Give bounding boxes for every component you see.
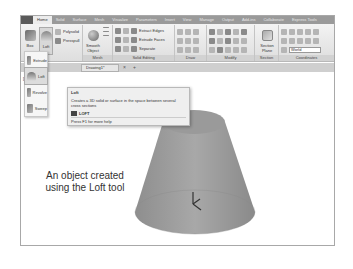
ribbon-tab-bar: Home Solid Surface Mesh Visualize Parame… (21, 16, 334, 24)
draw-row-3 (177, 45, 199, 54)
3d-rotate-icon[interactable] (217, 38, 223, 44)
tab-parameters[interactable]: Parameters (132, 16, 161, 24)
coordinates-panel-label[interactable]: Coordinates (279, 55, 334, 61)
ucs-3point-icon[interactable] (305, 38, 311, 44)
extrude-faces-button[interactable]: Extrude Faces (115, 35, 165, 44)
loft-icon (27, 72, 36, 81)
loft-icon (41, 31, 52, 42)
tab-surface[interactable]: Surface (69, 16, 91, 24)
hatch-icon[interactable] (185, 47, 191, 53)
tab-express-tools[interactable]: Express Tools (288, 16, 321, 24)
erase-icon[interactable] (241, 47, 247, 53)
draw-panel-label[interactable]: Draw (175, 55, 206, 61)
tooltip-command-name: LOFT (79, 111, 89, 117)
menu-item-loft[interactable]: Loft (25, 68, 47, 84)
tab-visualize[interactable]: Visualize (108, 16, 132, 24)
3d-move-icon[interactable] (225, 29, 231, 35)
tab-mesh[interactable]: Mesh (90, 16, 108, 24)
smooth-label-2: Object (85, 48, 101, 53)
loft-dropdown-menu: Extrude Loft Revolve Sweep (24, 51, 48, 117)
rotate-icon[interactable] (217, 29, 223, 35)
mesh-tool-icon[interactable] (103, 35, 109, 36)
section-panel-label[interactable]: Section (255, 55, 278, 61)
region-icon[interactable] (193, 47, 199, 53)
ucs-x-icon[interactable] (313, 38, 319, 44)
mesh-tool-icon[interactable] (103, 31, 109, 32)
ucs-zaxis-icon[interactable] (297, 38, 303, 44)
polysolid-button[interactable]: Polysolid (55, 27, 79, 36)
copy-icon[interactable] (233, 29, 239, 35)
tooltip-description: Creates a 3D solid or surface in the spa… (71, 98, 186, 109)
subtract-icon (123, 28, 129, 34)
spline-icon[interactable] (177, 38, 183, 44)
tab-solid[interactable]: Solid (52, 16, 69, 24)
ucs-icon[interactable] (281, 29, 287, 35)
tooltip-command: LOFT (71, 111, 186, 117)
section-plane-button[interactable]: Section Plane (259, 27, 275, 55)
coordinates-panel: World Coordinates (279, 25, 334, 61)
tab-output[interactable]: Output (218, 16, 238, 24)
presspull-button[interactable]: Presspull (55, 36, 79, 45)
menu-item-sweep[interactable]: Sweep (25, 100, 47, 116)
menu-item-extrude[interactable]: Extrude (25, 52, 47, 68)
3d-array-icon[interactable] (217, 47, 223, 53)
new-tab-button[interactable]: + (133, 64, 136, 70)
close-tab-icon[interactable]: × (123, 64, 126, 70)
ucs-view-icon[interactable] (281, 38, 287, 44)
intersect-icon (115, 37, 121, 43)
mesh-tool-icon[interactable] (103, 27, 109, 28)
menu-item-label: Revolve (33, 90, 47, 95)
extract-edges-button[interactable]: Extract Edges (115, 26, 164, 35)
application-menu-button[interactable] (21, 16, 33, 24)
tab-home[interactable]: Home (33, 16, 52, 24)
solid-editing-panel-label[interactable]: Solid Editing (113, 55, 174, 61)
trim-icon[interactable] (233, 47, 239, 53)
separate-icon (131, 46, 137, 52)
solid-editing-panel: Extract Edges Extrude Faces Separate Sol… (113, 25, 175, 61)
move-icon[interactable] (209, 29, 215, 35)
chamfer-icon[interactable] (241, 38, 247, 44)
ucs-object-icon[interactable] (313, 29, 319, 35)
modify-panel-label[interactable]: Modify (207, 55, 254, 61)
modify-row-2 (209, 36, 247, 45)
ucs-world-select[interactable]: World (289, 47, 321, 53)
stretch-icon[interactable] (209, 47, 215, 53)
ucs-world-icon[interactable] (289, 29, 295, 35)
mesh-small-tools (103, 27, 109, 36)
sweep-icon (27, 104, 33, 113)
caption-line-1: An object created (35, 170, 135, 182)
rectangle-icon[interactable] (177, 47, 183, 53)
separate-button[interactable]: Separate (115, 44, 155, 53)
file-tab-drawing1[interactable]: Drawing1* (81, 64, 119, 72)
ucs-face-icon[interactable] (305, 29, 311, 35)
menu-item-revolve[interactable]: Revolve (25, 84, 47, 100)
slice-icon (123, 37, 129, 43)
arc-icon[interactable] (193, 29, 199, 35)
ucs-previous-icon[interactable] (297, 29, 303, 35)
ribbon-panel-area: Box Loft Polysolid Presspull (21, 24, 334, 62)
command-line-icon (71, 111, 77, 116)
tab-add-ins[interactable]: Add-ins (238, 16, 260, 24)
box-icon (25, 30, 36, 41)
tooltip-title: Loft (71, 90, 186, 96)
3d-mirror-icon[interactable] (241, 29, 247, 35)
tab-manage[interactable]: Manage (195, 16, 217, 24)
tab-collaborate[interactable]: Collaborate (259, 16, 287, 24)
fillet-icon[interactable] (225, 38, 231, 44)
scale-icon[interactable] (233, 38, 239, 44)
mesh-panel-label[interactable]: Mesh (83, 55, 112, 61)
line-icon[interactable] (177, 29, 183, 35)
loft-tooltip: Loft Creates a 3D solid or surface in th… (67, 87, 190, 126)
polyline-icon[interactable] (185, 29, 191, 35)
align-icon[interactable] (209, 38, 215, 44)
offset-icon[interactable] (225, 47, 231, 53)
smooth-object-button[interactable]: Smooth Object (85, 27, 101, 55)
ucs-origin-icon[interactable] (289, 38, 295, 44)
ellipse-icon[interactable] (193, 38, 199, 44)
revolve-icon (27, 88, 31, 97)
tab-view[interactable]: View (179, 16, 196, 24)
extrude-icon (27, 56, 31, 65)
circle-icon[interactable] (185, 38, 191, 44)
ucs-icon-properties-icon[interactable] (281, 47, 287, 53)
tab-insert[interactable]: Insert (161, 16, 179, 24)
